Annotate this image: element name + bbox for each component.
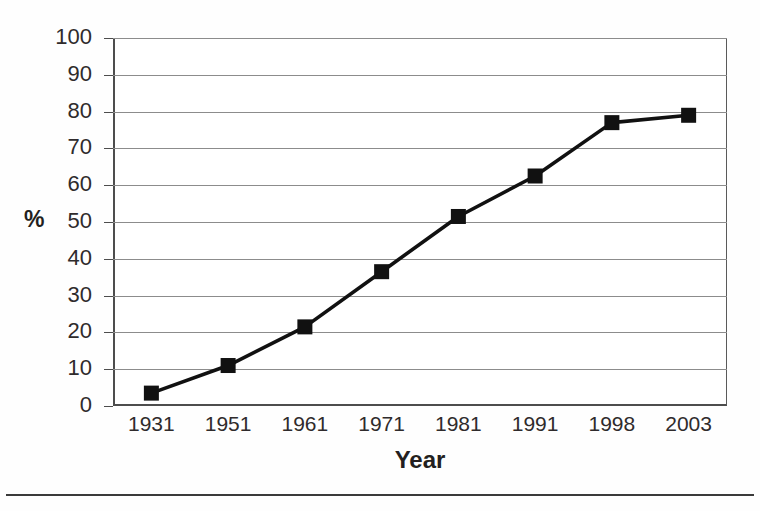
y-axis-tick-label: 60 — [68, 173, 92, 195]
y-axis-tick-label: 50 — [68, 210, 92, 232]
data-point-marker — [451, 209, 466, 224]
y-axis-tick — [104, 222, 113, 223]
data-point-marker — [604, 115, 619, 130]
x-axis-tick-label: 2003 — [665, 412, 712, 436]
y-axis-tick-label: 10 — [68, 357, 92, 379]
y-axis-tick-label: 30 — [68, 284, 92, 306]
x-axis-tick-label: 1971 — [358, 412, 405, 436]
x-axis-tick-label: 1961 — [282, 412, 329, 436]
x-axis-tick-label: 1981 — [435, 412, 482, 436]
y-axis-tick — [104, 296, 113, 297]
y-axis-tick-label: 100 — [55, 26, 92, 48]
y-axis-tick — [104, 369, 113, 370]
line-series — [113, 38, 727, 406]
bottom-divider-rule — [6, 494, 754, 496]
plot-area — [113, 38, 727, 406]
y-axis-tick — [104, 112, 113, 113]
y-axis-tick — [104, 332, 113, 333]
chart-figure: 0102030405060708090100 % 193119511961197… — [0, 0, 760, 511]
x-axis-title: Year — [113, 447, 727, 473]
data-point-marker — [221, 358, 236, 373]
data-point-marker — [144, 386, 159, 401]
y-axis-title: % — [24, 207, 44, 231]
y-axis-tick-label: 20 — [68, 320, 92, 342]
y-axis-tick-label: 80 — [68, 100, 92, 122]
y-axis-tick — [104, 406, 113, 407]
data-point-marker — [374, 264, 389, 279]
y-axis-tick-label: 40 — [68, 247, 92, 269]
series-line-path — [151, 115, 688, 393]
y-axis-tick — [104, 148, 113, 149]
y-axis-tick-label: 70 — [68, 136, 92, 158]
x-axis-tick-label: 1991 — [512, 412, 559, 436]
x-axis-tick-label: 1998 — [589, 412, 636, 436]
y-axis-tick-label: 0 — [80, 394, 92, 416]
y-axis-tick-labels: 0102030405060708090100 — [0, 38, 104, 406]
y-axis-tick — [104, 259, 113, 260]
series-markers — [144, 108, 696, 401]
data-point-marker — [297, 319, 312, 334]
x-axis-tick-label: 1931 — [128, 412, 175, 436]
data-point-marker — [528, 169, 543, 184]
x-axis-tick-label: 1951 — [205, 412, 252, 436]
y-axis-tick — [104, 75, 113, 76]
x-axis-tick-labels: 19311951196119711981199119982003 — [113, 412, 727, 442]
y-axis-tick — [104, 38, 113, 39]
data-point-marker — [681, 108, 696, 123]
y-axis-tick-label: 90 — [68, 63, 92, 85]
y-axis-tick — [104, 185, 113, 186]
